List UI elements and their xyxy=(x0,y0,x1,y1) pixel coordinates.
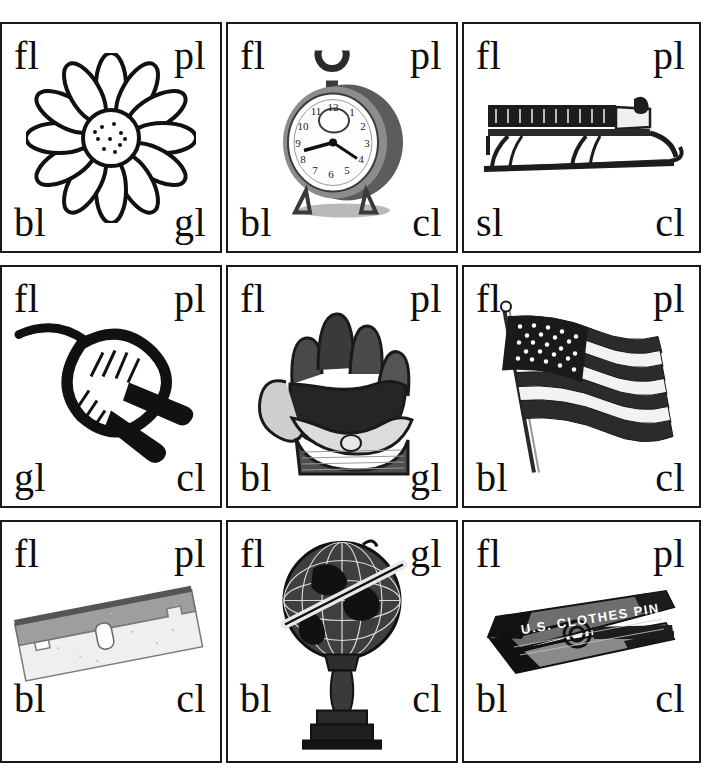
american-flag-icon xyxy=(464,294,699,479)
blend-option-top-left[interactable]: fl xyxy=(240,279,265,319)
blend-option-top-right[interactable]: pl xyxy=(410,36,442,76)
blend-option-top-left[interactable]: fl xyxy=(240,36,265,76)
blend-option-bottom-left[interactable]: bl xyxy=(14,679,46,719)
picture-card-grid: fl pl bl gl xyxy=(0,22,701,763)
blend-option-top-right[interactable]: pl xyxy=(653,279,685,319)
svg-text:12: 12 xyxy=(328,100,339,112)
blend-option-top-right[interactable]: pl xyxy=(174,534,206,574)
picture-card-blade[interactable]: fl pl bl cl xyxy=(0,520,222,763)
blend-option-bottom-left[interactable]: bl xyxy=(14,203,46,243)
svg-text:5: 5 xyxy=(344,163,350,175)
blend-option-bottom-right[interactable]: cl xyxy=(412,679,442,719)
picture-card-plug[interactable]: fl pl gl cl xyxy=(0,265,222,508)
svg-text:1: 1 xyxy=(349,105,355,117)
blend-option-bottom-right[interactable]: cl xyxy=(655,203,685,243)
picture-card-globe[interactable]: fl gl bl cl xyxy=(226,520,458,763)
blend-option-bottom-right[interactable]: cl xyxy=(176,458,206,498)
blend-option-bottom-right[interactable]: cl xyxy=(412,203,442,243)
blend-option-bottom-right[interactable]: gl xyxy=(410,458,442,498)
blend-option-bottom-left[interactable]: sl xyxy=(476,203,504,243)
blend-option-bottom-left[interactable]: bl xyxy=(476,679,508,719)
blend-option-top-left[interactable]: fl xyxy=(240,534,265,574)
blend-option-bottom-right[interactable]: cl xyxy=(176,679,206,719)
blend-option-bottom-right[interactable]: gl xyxy=(174,203,206,243)
sled-icon xyxy=(464,83,699,193)
picture-card-glove[interactable]: fl pl bl gl xyxy=(226,265,458,508)
blend-option-bottom-left[interactable]: bl xyxy=(476,458,508,498)
blend-option-top-left[interactable]: fl xyxy=(14,279,39,319)
blend-option-top-left[interactable]: fl xyxy=(14,534,39,574)
blend-option-bottom-right[interactable]: cl xyxy=(655,679,685,719)
svg-text:10: 10 xyxy=(298,119,310,131)
svg-text:4: 4 xyxy=(358,152,364,164)
picture-card-flag[interactable]: fl pl bl cl xyxy=(462,265,701,508)
svg-text:2: 2 xyxy=(360,119,366,131)
blend-option-bottom-left[interactable]: gl xyxy=(14,458,46,498)
svg-text:11: 11 xyxy=(311,104,322,116)
blend-option-bottom-left[interactable]: bl xyxy=(240,458,272,498)
blend-option-bottom-left[interactable]: bl xyxy=(240,679,272,719)
blend-option-top-right[interactable]: pl xyxy=(410,279,442,319)
picture-card-flower[interactable]: fl pl bl gl xyxy=(0,22,222,253)
blend-option-top-right[interactable]: pl xyxy=(174,36,206,76)
svg-text:8: 8 xyxy=(300,152,306,164)
svg-text:6: 6 xyxy=(328,167,334,179)
clothespin-caption: U.S. CLOTHES PIN xyxy=(520,600,661,637)
blend-option-top-left[interactable]: fl xyxy=(476,279,501,319)
blend-option-bottom-left[interactable]: bl xyxy=(240,203,272,243)
picture-card-clothespin[interactable]: fl pl bl cl xyxy=(462,520,701,763)
blend-option-bottom-right[interactable]: cl xyxy=(655,458,685,498)
blend-option-top-left[interactable]: fl xyxy=(476,534,501,574)
svg-text:9: 9 xyxy=(295,136,301,148)
blend-option-top-right[interactable]: pl xyxy=(653,36,685,76)
svg-text:7: 7 xyxy=(312,163,318,175)
picture-card-sled[interactable]: fl pl sl cl xyxy=(462,22,701,253)
blend-option-top-right[interactable]: pl xyxy=(653,534,685,574)
svg-text:3: 3 xyxy=(364,136,370,148)
blend-option-top-left[interactable]: fl xyxy=(14,36,39,76)
electric-plug-icon xyxy=(2,304,220,469)
blend-option-top-right[interactable]: pl xyxy=(174,279,206,319)
flower-icon xyxy=(2,53,220,223)
picture-card-clock[interactable]: fl pl bl cl 121 23 45 xyxy=(226,22,458,253)
blend-option-top-left[interactable]: fl xyxy=(476,36,501,76)
blend-option-top-right[interactable]: gl xyxy=(410,534,442,574)
